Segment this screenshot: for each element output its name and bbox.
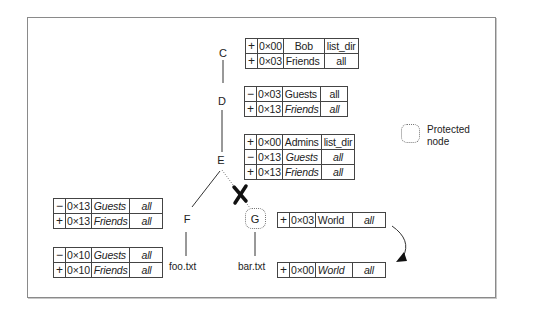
acl-sign: + [246,39,258,54]
acl-table-g-upper: + 0×03 World all [277,212,386,228]
acl-table-f-upper: − 0×13 Guests all + 0×13 Friends all [53,198,163,229]
acl-group: Bob [283,39,324,54]
edge-e-f [192,171,220,207]
acl-sign: + [245,135,257,150]
acl-group: Friends [91,263,130,278]
acl-table-e: + 0×00 Admins list_dir − 0×13 Guests all… [244,134,355,180]
acl-perm: all [321,150,355,165]
acl-sign: − [245,150,257,165]
acl-perm: all [130,248,163,263]
acl-mask: 0×00 [257,135,283,150]
legend-label: Protected node [427,124,470,148]
node-g: G [248,213,262,225]
acl-row: − 0×03 Guests all [245,87,348,102]
node-c: C [216,47,230,59]
acl-mask: 0×13 [66,199,92,214]
acl-table-g-lower: + 0×00 World all [277,262,386,278]
acl-mask: 0×03 [290,213,316,228]
acl-group: Guests [91,199,130,214]
acl-group: Admins [282,135,321,150]
node-f: F [180,213,194,225]
acl-row: − 0×10 Guests all [54,248,163,263]
acl-sign: + [246,54,258,69]
acl-sign: + [245,102,257,117]
acl-perm: all [352,213,385,228]
acl-sign: − [54,199,66,214]
arrow-head-icon [396,252,407,262]
blocked-cross-icon [234,186,246,203]
acl-table-d: − 0×03 Guests all + 0×13 Friends all [244,86,348,117]
acl-mask: 0×00 [290,263,316,278]
acl-group: World [315,213,352,228]
acl-perm: all [321,87,348,102]
acl-row: + 0×03 World all [278,213,386,228]
acl-mask: 0×10 [66,263,92,278]
acl-sign: + [54,263,66,278]
acl-row: + 0×00 Admins list_dir [245,135,355,150]
acl-group: Friends [283,54,324,69]
acl-group: Guests [282,150,321,165]
acl-sign: − [245,87,257,102]
acl-row: + 0×13 Friends all [245,102,348,117]
acl-mask: 0×13 [257,102,283,117]
acl-perm: all [321,102,348,117]
acl-sign: + [278,263,290,278]
file-foo: foo.txt [169,261,196,273]
acl-group: Guests [282,87,321,102]
file-bar: bar.txt [238,261,265,273]
acl-row: + 0×03 Friends all [246,54,359,69]
acl-perm: list_dir [324,39,358,54]
acl-row: + 0×10 Friends all [54,263,163,278]
acl-group: World [315,263,352,278]
acl-sign: + [278,213,290,228]
acl-mask: 0×13 [66,214,92,229]
acl-perm: all [352,263,385,278]
acl-mask: 0×13 [257,150,283,165]
acl-row: + 0×00 Bob list_dir [246,39,359,54]
acl-mask: 0×00 [258,39,284,54]
acl-sign: + [54,214,66,229]
acl-row: − 0×13 Guests all [54,199,163,214]
acl-mask: 0×10 [66,248,92,263]
node-d: D [215,95,229,107]
acl-group: Guests [91,248,130,263]
acl-perm: all [130,214,163,229]
protected-node-legend-icon [401,124,420,143]
acl-row: + 0×00 World all [278,263,386,278]
acl-sign: + [245,165,257,180]
acl-row: + 0×13 Friends all [245,165,355,180]
acl-mask: 0×03 [257,87,283,102]
acl-sign: − [54,248,66,263]
acl-mask: 0×03 [258,54,284,69]
acl-table-c: + 0×00 Bob list_dir + 0×03 Friends all [245,38,359,69]
acl-perm: all [130,199,163,214]
node-e: E [214,154,228,166]
acl-group: Friends [282,102,321,117]
acl-perm: all [321,165,355,180]
acl-perm: all [324,54,358,69]
acl-perm: list_dir [321,135,355,150]
acl-mask: 0×13 [257,165,283,180]
acl-row: − 0×13 Guests all [245,150,355,165]
acl-group: Friends [91,214,130,229]
acl-row: + 0×13 Friends all [54,214,163,229]
acl-table-f-lower: − 0×10 Guests all + 0×10 Friends all [53,247,163,278]
acl-group: Friends [282,165,321,180]
acl-perm: all [130,263,163,278]
